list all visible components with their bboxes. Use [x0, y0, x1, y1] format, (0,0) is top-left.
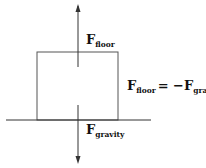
- floor-force-arrowhead-icon: [76, 4, 81, 12]
- floor-force-label: Ffloor: [86, 32, 116, 49]
- force-diagram: Ffloor Fgravity Ffloor= −Fgravity: [0, 0, 206, 168]
- gravity-force-label: Fgravity: [86, 122, 125, 139]
- force-equation: Ffloor= −Fgravity: [127, 78, 206, 95]
- gravity-force-arrowhead-icon: [76, 156, 81, 164]
